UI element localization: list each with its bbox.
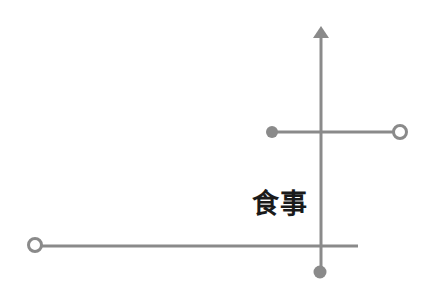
- timeline-diagram: [0, 0, 437, 298]
- diagram-canvas: 食事: [0, 0, 437, 298]
- bottom-filled-dot-icon: [314, 266, 327, 279]
- arrow-up-icon: [313, 26, 329, 38]
- diagram-label: 食事: [252, 188, 308, 220]
- lower-start-open-circle-icon: [29, 239, 42, 252]
- upper-end-open-circle-icon: [394, 126, 407, 139]
- upper-start-filled-dot-icon: [266, 126, 278, 138]
